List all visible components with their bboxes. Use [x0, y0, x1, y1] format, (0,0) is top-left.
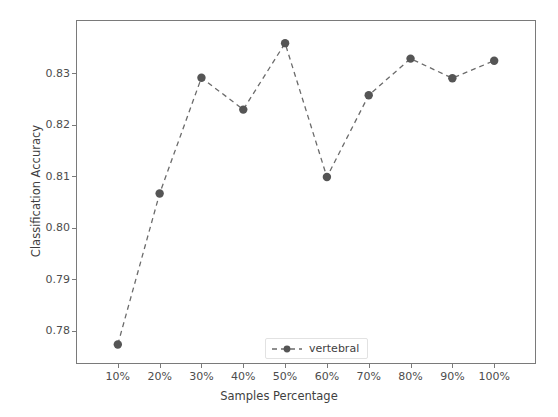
x-tick-mark: [494, 364, 495, 368]
y-axis-label: Classification Accuracy: [29, 91, 43, 291]
x-tick-mark: [411, 364, 412, 368]
x-tick-mark: [243, 364, 244, 368]
x-tick-mark: [160, 364, 161, 368]
data-point-marker: [448, 74, 456, 82]
data-point-marker: [114, 340, 122, 348]
x-tick-mark: [201, 364, 202, 368]
legend-label-vertebral: vertebral: [309, 342, 359, 355]
x-tick-label: 80%: [398, 371, 422, 382]
chart-figure: 0.780.790.800.810.820.83 10%20%30%40%50%…: [0, 0, 558, 417]
series-data-layer: [76, 20, 536, 364]
x-tick-label: 50%: [273, 371, 297, 382]
data-point-marker: [323, 173, 331, 181]
x-tick-label: 60%: [315, 371, 339, 382]
data-point-marker: [239, 105, 247, 113]
data-point-marker: [281, 39, 289, 47]
x-tick-mark: [327, 364, 328, 368]
data-point-marker: [406, 54, 414, 62]
data-point-marker: [490, 56, 498, 64]
x-tick-mark: [369, 364, 370, 368]
data-point-marker: [197, 73, 205, 81]
x-tick-label: 30%: [189, 371, 213, 382]
y-tick-label: 0.78: [36, 325, 70, 336]
data-point-marker: [155, 189, 163, 197]
chart-legend: vertebral: [265, 338, 368, 359]
x-tick-label: 90%: [440, 371, 464, 382]
x-tick-label: 10%: [106, 371, 130, 382]
y-tick-label: 0.83: [36, 68, 70, 79]
legend-line-marker-icon: [272, 344, 302, 354]
x-tick-label: 100%: [478, 371, 509, 382]
data-point-marker: [365, 91, 373, 99]
x-tick-label: 70%: [356, 371, 380, 382]
series-markers-vertebral: [114, 39, 499, 349]
x-axis-label: Samples Percentage: [0, 389, 558, 403]
x-tick-mark: [118, 364, 119, 368]
x-tick-mark: [285, 364, 286, 368]
series-line-vertebral: [118, 43, 494, 344]
x-tick-mark: [452, 364, 453, 368]
x-tick-label: 20%: [147, 371, 171, 382]
x-tick-label: 40%: [231, 371, 255, 382]
